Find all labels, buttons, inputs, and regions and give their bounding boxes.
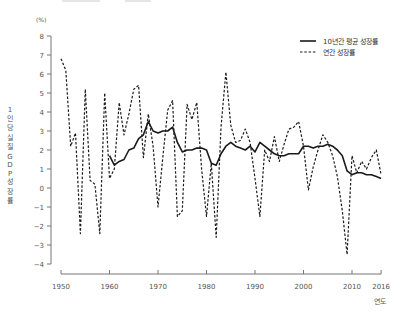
svg-text:P: P — [8, 170, 12, 178]
y-tick-label: 6 — [40, 71, 45, 79]
growth-rate-chart: (%) 876543210−1−2−3−4 195019601970198019… — [0, 0, 405, 324]
svg-text:성: 성 — [7, 177, 13, 186]
y-tick-label: 1 — [40, 166, 44, 174]
y-unit-label: (%) — [36, 16, 46, 23]
y-tick-label: −1 — [34, 204, 44, 212]
x-tick-label: 1970 — [149, 283, 167, 291]
x-tick-label: 2016 — [372, 283, 390, 291]
legend: 10년간 평균 성장률 연간 성장률 — [300, 37, 379, 57]
y-tick-label: −2 — [34, 223, 44, 231]
y-tick-label: 0 — [40, 185, 44, 193]
clipped-title-fragment — [62, 0, 151, 2]
y-tick-label: 5 — [40, 90, 44, 98]
svg-text:인: 인 — [7, 114, 13, 123]
y-tick-label: −3 — [34, 242, 44, 250]
svg-text:D: D — [7, 161, 12, 169]
y-axis-title: 1인당실질GDP성장률 — [7, 106, 14, 205]
x-tick-label: 1980 — [198, 283, 216, 291]
legend-label-annual: 연간 성장률 — [323, 48, 356, 57]
x-tick-label: 1950 — [52, 283, 70, 291]
y-tick-label: 4 — [40, 109, 45, 117]
svg-text:1: 1 — [8, 106, 12, 114]
y-tick-label: 3 — [40, 128, 44, 136]
series-lines — [61, 59, 381, 255]
svg-text:률: 률 — [7, 197, 14, 205]
x-tick-label: 1960 — [101, 283, 119, 291]
y-axis: 876543210−1−2−3−4 — [34, 33, 51, 269]
x-tick-label: 2010 — [343, 283, 361, 291]
svg-text:당: 당 — [7, 123, 14, 132]
y-tick-label: −4 — [34, 261, 45, 269]
x-axis: 19501960197019801990200020102016 — [52, 270, 390, 291]
annual-growth-line — [61, 59, 381, 255]
x-tick-label: 2000 — [295, 283, 313, 291]
x-axis-title: 연도 — [374, 298, 387, 306]
svg-text:장: 장 — [7, 187, 14, 196]
svg-text:실: 실 — [7, 133, 13, 142]
x-tick-label: 1990 — [246, 283, 264, 291]
y-tick-label: 7 — [40, 52, 44, 60]
svg-text:G: G — [7, 153, 12, 161]
y-tick-label: 8 — [40, 33, 44, 41]
svg-text:질: 질 — [7, 143, 13, 151]
legend-label-avg: 10년간 평균 성장률 — [323, 37, 379, 46]
y-tick-label: 2 — [40, 147, 44, 155]
